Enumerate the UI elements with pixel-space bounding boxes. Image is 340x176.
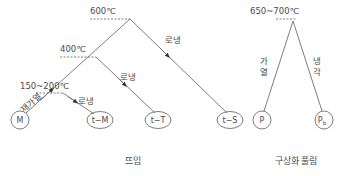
heat-label-2: 열 xyxy=(260,67,268,77)
temp-150-200-label: 150~200℃ xyxy=(20,81,70,91)
cool-600-line xyxy=(130,19,227,113)
reheat-label: 재가열 xyxy=(19,91,44,114)
spheroidizing-labels: 650~700℃ 가 열 냉 각 P Pb 구상화 풀림 xyxy=(250,6,327,166)
node-pb-sub: b xyxy=(323,120,327,126)
cool-400-line xyxy=(96,57,155,113)
heat-line xyxy=(264,21,293,111)
heat-label-1: 가 xyxy=(260,56,268,66)
cool-600-arrow-icon xyxy=(160,48,168,56)
node-tm-label: t−M xyxy=(92,116,109,125)
node-m-label: M xyxy=(17,116,24,125)
cool-label-2: 각 xyxy=(313,67,321,77)
cool-150-arrow-icon xyxy=(68,97,76,103)
cool-150-label: 로냉 xyxy=(78,96,94,106)
cool-600-label: 로냉 xyxy=(165,35,181,45)
node-ts-label: t−S xyxy=(223,116,238,125)
cool-400-label: 로냉 xyxy=(120,72,136,82)
temp-400-label: 400℃ xyxy=(60,44,86,54)
node-p-label: P xyxy=(260,116,265,125)
cool-line xyxy=(293,21,322,111)
heat-treatment-diagram: 600℃ 400℃ 150~200℃ 로냉 로냉 로냉 재가열 M t−M t−… xyxy=(0,0,340,176)
spheroidizing-caption: 구상화 풀림 xyxy=(275,155,318,166)
node-tt-label: t−T xyxy=(151,116,166,125)
temp-650-700-label: 650~700℃ xyxy=(250,6,300,16)
temp-600-label: 600℃ xyxy=(90,6,116,16)
cool-label-1: 냉 xyxy=(313,56,321,66)
node-pb-label: Pb xyxy=(318,116,327,126)
tempering-caption: 뜨임 xyxy=(125,155,141,166)
